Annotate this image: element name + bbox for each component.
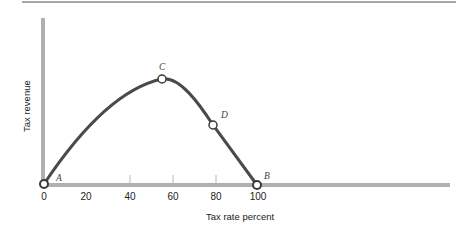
x-tick-labels: 0 20 40 60 80 100 xyxy=(41,191,267,202)
point-c-label: C xyxy=(159,62,166,72)
point-c-marker xyxy=(158,75,166,83)
x-tick-marks xyxy=(130,175,216,183)
point-b-marker xyxy=(253,181,261,189)
laffer-curve xyxy=(44,79,257,185)
x-axis-title: Tax rate percent xyxy=(206,211,274,222)
x-axis xyxy=(41,183,450,187)
x-tick-60: 60 xyxy=(167,191,179,202)
x-tick-80: 80 xyxy=(210,191,222,202)
x-tick-100: 100 xyxy=(250,191,267,202)
laffer-chart: A C D B 0 20 40 60 80 100 Tax rate perce… xyxy=(0,0,467,237)
x-tick-0: 0 xyxy=(41,191,47,202)
x-tick-20: 20 xyxy=(80,191,92,202)
point-d-marker xyxy=(209,121,217,129)
point-a-label: A xyxy=(55,173,62,183)
point-b-label: B xyxy=(264,171,270,181)
point-d-label: D xyxy=(220,110,228,120)
y-axis-title: Tax revenue xyxy=(21,80,32,132)
y-axis xyxy=(41,18,45,186)
x-tick-40: 40 xyxy=(124,191,136,202)
point-a-marker xyxy=(40,180,48,188)
